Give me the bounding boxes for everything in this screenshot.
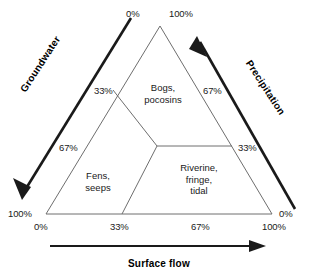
- tick-right-upper: 67%: [203, 85, 222, 96]
- axis-label-surface-flow: Surface flow: [128, 258, 190, 269]
- tick-bottom-right-outer: 0%: [279, 208, 293, 219]
- region-riverine-line2: fringe,: [168, 174, 230, 186]
- region-fens-line1: Fens,: [72, 170, 124, 182]
- tick-bottom-left-outer: 100%: [8, 208, 32, 219]
- region-label-fens-seeps: Fens, seeps: [72, 170, 124, 193]
- region-riverine-line1: Riverine,: [168, 162, 230, 174]
- tick-apex-left: 0%: [126, 8, 140, 19]
- region-label-bogs-pocosins: Bogs, pocosins: [132, 82, 194, 105]
- region-label-riverine-fringe-tidal: Riverine, fringe, tidal: [168, 162, 230, 197]
- region-bogs-line1: Bogs,: [132, 82, 194, 94]
- tick-left-lower: 67%: [59, 142, 78, 153]
- divider-bottom-left: [122, 146, 157, 214]
- region-fens-line2: seeps: [72, 182, 124, 194]
- tick-bottom-left-under: 0%: [34, 221, 48, 232]
- tick-right-lower: 33%: [238, 142, 257, 153]
- region-riverine-line3: tidal: [168, 185, 230, 197]
- ternary-diagram: 0% 100% 33% 67% 67% 33% 100% 0% 0% 33% 6…: [0, 0, 320, 275]
- surface-flow-arrow: [50, 240, 266, 252]
- tick-bottom-third: 33%: [110, 221, 129, 232]
- region-bogs-line2: pocosins: [132, 94, 194, 106]
- tick-left-upper: 33%: [94, 85, 113, 96]
- tick-bottom-two-thirds: 67%: [191, 221, 210, 232]
- tick-apex-right: 100%: [169, 8, 193, 19]
- tick-bottom-right-under: 100%: [262, 221, 286, 232]
